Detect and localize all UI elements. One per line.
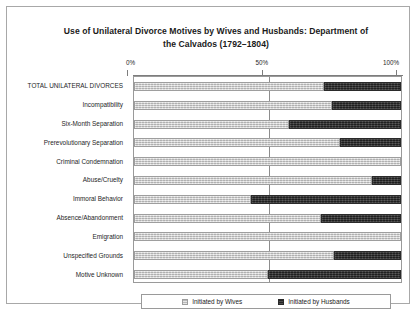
y-axis-category-label: Emigration: [0, 233, 123, 240]
y-axis-category-label: Absence/Abandonment: [0, 214, 123, 221]
bar-segment-wives: [134, 157, 401, 166]
stacked-bar: [134, 138, 401, 147]
bar-segment-wives: [134, 251, 334, 260]
bar-segment-wives: [134, 101, 332, 110]
chart-legend: Initiated by Wives Initiated by Husbands: [141, 294, 391, 309]
x-axis-tick-label: 0%: [126, 59, 135, 66]
stacked-bar: [134, 120, 401, 129]
legend-item-husbands: Initiated by Husbands: [278, 298, 349, 305]
bar-segment-husbands: [268, 270, 402, 279]
bar-segment-husbands: [321, 214, 401, 223]
y-axis-category-label: TOTAL UNILATERAL DIVORCES: [0, 82, 123, 89]
y-axis-category-label: Immoral Behavior: [0, 195, 123, 202]
y-axis-category-label: Criminal Condemnation: [0, 158, 123, 165]
bar-segment-wives: [134, 232, 401, 241]
husbands-swatch-icon: [278, 299, 284, 305]
x-axis-tick-label: 50%: [256, 59, 269, 66]
bar-segment-husbands: [334, 251, 401, 260]
stacked-bar: [134, 176, 401, 185]
legend-label-husbands: Initiated by Husbands: [288, 298, 349, 305]
chart-title: Use of Unilateral Divorce Motives by Wiv…: [37, 25, 395, 51]
plot-wrap: TOTAL UNILATERAL DIVORCESIncompatibility…: [133, 76, 402, 283]
bar-row: Incompatibility: [134, 96, 401, 115]
bar-row: Abuse/Cruelty: [134, 171, 401, 190]
bar-segment-wives: [134, 82, 324, 91]
legend-item-wives: Initiated by Wives: [182, 298, 242, 305]
y-axis-category-label: Prerevolutionary Separation: [0, 139, 123, 146]
chart-screenshot: Use of Unilateral Divorce Motives by Wiv…: [0, 0, 416, 316]
bar-row: Immoral Behavior: [134, 190, 401, 209]
bar-row: Motive Unknown: [134, 265, 401, 284]
bar-row: Six-Month Separation: [134, 115, 401, 134]
legend-label-wives: Initiated by Wives: [192, 298, 242, 305]
bar-segment-wives: [134, 176, 372, 185]
stacked-bar: [134, 195, 401, 204]
bar-segment-husbands: [324, 82, 401, 91]
stacked-bar: [134, 270, 401, 279]
plot-area: TOTAL UNILATERAL DIVORCESIncompatibility…: [133, 76, 402, 283]
chart-title-line-1: Use of Unilateral Divorce Motives by Wiv…: [37, 25, 395, 38]
bar-segment-husbands: [340, 138, 401, 147]
y-axis-category-label: Motive Unknown: [0, 271, 123, 278]
bar-segment-wives: [134, 214, 321, 223]
stacked-bar: [134, 232, 401, 241]
x-axis-tick-label: 100%: [383, 59, 399, 66]
bar-row: Prerevolutionary Separation: [134, 133, 401, 152]
bar-row: Emigration: [134, 228, 401, 247]
bar-segment-husbands: [372, 176, 401, 185]
bar-segment-wives: [134, 138, 340, 147]
bar-segment-husbands: [289, 120, 401, 129]
chart-frame: Use of Unilateral Divorce Motives by Wiv…: [6, 6, 410, 304]
bar-row: Criminal Condemnation: [134, 152, 401, 171]
bar-row: Absence/Abandonment: [134, 209, 401, 228]
y-axis-category-label: Six-Month Separation: [0, 120, 123, 127]
bar-row: Unspecified Grounds: [134, 246, 401, 265]
stacked-bar: [134, 251, 401, 260]
stacked-bar: [134, 101, 401, 110]
bar-segment-husbands: [332, 101, 401, 110]
bar-segment-wives: [134, 195, 251, 204]
y-axis-category-label: Abuse/Cruelty: [0, 176, 123, 183]
y-axis-category-label: Incompatibility: [0, 101, 123, 108]
chart-title-line-2: the Calvados (1792–1804): [37, 38, 395, 51]
bar-segment-wives: [134, 270, 268, 279]
y-axis-category-label: Unspecified Grounds: [0, 252, 123, 259]
stacked-bar: [134, 157, 401, 166]
bar-segment-wives: [134, 120, 289, 129]
stacked-bar: [134, 82, 401, 91]
bar-segment-husbands: [251, 195, 401, 204]
bar-row: TOTAL UNILATERAL DIVORCES: [134, 77, 401, 96]
x-axis-tick: [127, 70, 128, 76]
stacked-bar: [134, 214, 401, 223]
wives-swatch-icon: [182, 299, 188, 305]
